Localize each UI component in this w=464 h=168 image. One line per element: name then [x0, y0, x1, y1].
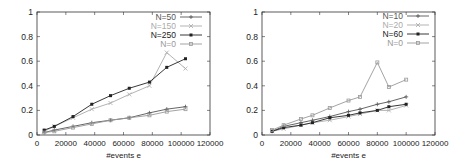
y-tick-label: 0.8: [21, 32, 33, 42]
chart-right: 00.20.40.60.8102000040000600008000010000…: [232, 0, 464, 168]
series-n-60: [271, 103, 408, 133]
series-n-250: [43, 57, 187, 131]
y-tick-label: 0.2: [21, 105, 33, 115]
x-tick-label: 0: [35, 139, 40, 148]
chart-left: 00.20.40.60.8102000040000600008000010000…: [0, 0, 232, 168]
chart-right-plot: 00.20.40.60.8102000040000600008000010000…: [232, 0, 464, 168]
legend: N=10N=20N=60N=0: [382, 11, 429, 48]
legend-label: N=0: [160, 39, 176, 49]
chart-left-plot: 00.20.40.60.8102000040000600008000010000…: [0, 0, 232, 168]
y-tick-label: 0: [253, 130, 258, 140]
x-axis-label: #events e: [106, 151, 141, 160]
y-tick-label: 0.8: [246, 32, 258, 42]
series-n-0: [271, 61, 408, 132]
x-tick-label: 20000: [55, 139, 78, 148]
y-tick-label: 0.4: [21, 81, 33, 91]
x-tick-label: 40000: [84, 139, 107, 148]
y-tick-label: 0.6: [246, 56, 258, 66]
plot-frame: [37, 12, 210, 135]
x-tick-label: 0: [260, 139, 265, 148]
x-tick-label: 80000: [141, 139, 164, 148]
x-tick-label: 20000: [280, 139, 303, 148]
x-tick-label: 60000: [112, 139, 135, 148]
x-tick-label: 60000: [337, 139, 360, 148]
x-axis-label: #events e: [331, 151, 366, 160]
x-tick-label: 80000: [366, 139, 389, 148]
y-tick-label: 1: [253, 7, 258, 17]
x-tick-label: 120000: [422, 139, 449, 148]
x-tick-label: 100000: [168, 139, 195, 148]
legend-label: N=0: [387, 38, 403, 48]
y-tick-label: 0.2: [246, 105, 258, 115]
y-tick-label: 1: [28, 7, 33, 17]
y-tick-label: 0: [28, 130, 33, 140]
legend: N=50N=150N=250N=0: [151, 12, 202, 49]
y-tick-label: 0.4: [246, 81, 258, 91]
x-tick-label: 40000: [309, 139, 332, 148]
x-tick-label: 100000: [393, 139, 420, 148]
y-tick-label: 0.6: [21, 56, 33, 66]
x-tick-label: 120000: [197, 139, 224, 148]
